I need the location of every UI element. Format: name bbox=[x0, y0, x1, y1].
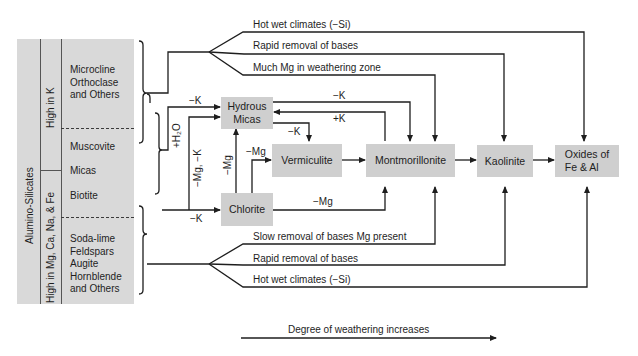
top-path-hot-wet: Hot wet climates (−Si) bbox=[253, 19, 351, 30]
brace-micas bbox=[155, 113, 162, 194]
node-kaolinite: Kaolinite bbox=[477, 145, 533, 177]
montmorillonite-label: Montmorillonite bbox=[375, 154, 446, 167]
hydrous-micas-line1: Hydrous bbox=[227, 100, 266, 113]
hydrous-micas-line2: Micas bbox=[227, 113, 266, 126]
label-chlorite-to-hydrous: −Mg bbox=[222, 155, 233, 175]
top-path-rapid-removal: Rapid removal of bases bbox=[253, 40, 358, 51]
label-plus-h2o: +H₂O bbox=[171, 123, 182, 148]
label-hydrous-to-verm: −K bbox=[288, 126, 301, 137]
flow-lines bbox=[0, 0, 638, 356]
node-vermiculite: Vermiculite bbox=[272, 144, 342, 177]
vermiculite-label: Vermiculite bbox=[281, 154, 332, 167]
label-chlorite-to-verm: −Mg bbox=[246, 146, 266, 157]
bottom-path-slow-removal: Slow removal of bases Mg present bbox=[253, 231, 406, 242]
bottom-path-hot-wet: Hot wet climates (−Si) bbox=[253, 274, 351, 285]
node-oxides-fe-al: Oxides ofFe & Al bbox=[555, 145, 619, 177]
node-montmorillonite: Montmorillonite bbox=[366, 144, 455, 177]
weathering-axis-label: Degree of weathering increases bbox=[288, 324, 429, 335]
label-chlorite-minus-k: −K bbox=[190, 213, 203, 224]
label-mont-to-hydrous: +K bbox=[333, 113, 346, 124]
oxides-line2: Fe & Al bbox=[565, 161, 609, 174]
label-chlorite-to-mont: −Mg bbox=[313, 196, 333, 207]
bottom-path-rapid-removal: Rapid removal of bases bbox=[253, 253, 358, 264]
chlorite-label: Chlorite bbox=[229, 203, 265, 216]
node-hydrous-micas: HydrousMicas bbox=[221, 97, 273, 129]
node-chlorite: Chlorite bbox=[221, 193, 273, 226]
brace-high-mg bbox=[139, 206, 147, 294]
oxides-line1: Oxides of bbox=[565, 148, 609, 161]
label-hydrous-to-mont: −K bbox=[333, 90, 346, 101]
label-minus-k-top: −K bbox=[189, 95, 202, 106]
brace-high-k bbox=[139, 41, 147, 143]
kaolinite-label: Kaolinite bbox=[485, 155, 525, 168]
label-minus-mg-minus-k: −Mg, −K bbox=[192, 149, 203, 187]
top-path-much-mg: Much Mg in weathering zone bbox=[253, 62, 381, 73]
